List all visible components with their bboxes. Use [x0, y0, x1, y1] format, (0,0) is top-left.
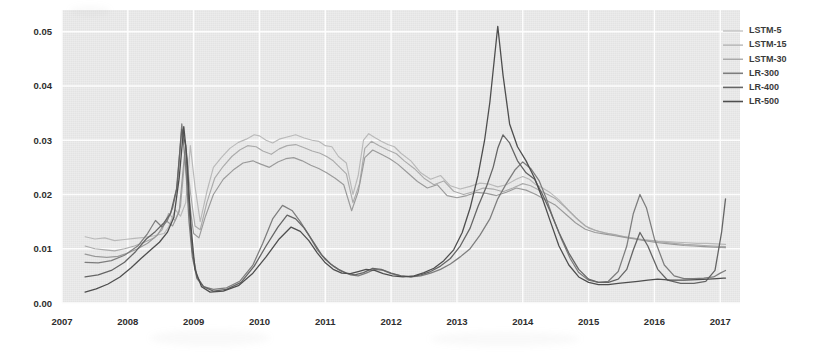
legend-label-lr-300: LR-300: [749, 68, 779, 78]
x-tick-label: 2009: [183, 316, 204, 327]
x-tick-label: 2015: [578, 316, 600, 327]
y-tick-label: 0.01: [34, 243, 53, 254]
legend-label-lr-500: LR-500: [749, 96, 779, 106]
x-tick-label: 2008: [117, 316, 138, 327]
y-tick-label: 0.05: [34, 26, 53, 37]
legend: LSTM-5LSTM-15LSTM-30LR-300LR-400LR-500: [723, 25, 787, 106]
x-tick-label: 2010: [249, 316, 270, 327]
series-line-lr-500: [85, 26, 725, 292]
x-tick-label: 2007: [51, 316, 72, 327]
chart-svg: 0.000.010.020.030.040.05 200720082009201…: [0, 0, 813, 357]
gridlines-group: [62, 10, 740, 303]
y-tick-label: 0.03: [34, 135, 53, 146]
series-line-lr-300: [85, 124, 725, 290]
x-tick-label: 2017: [710, 316, 731, 327]
x-axis-tick-labels: 2007200820092010201120122013201420152016…: [51, 316, 730, 327]
series-lines-group: [85, 26, 725, 292]
x-tick-label: 2012: [381, 316, 402, 327]
x-tick-label: 2016: [644, 316, 665, 327]
y-tick-label: 0.04: [34, 80, 53, 91]
x-tick-label: 2014: [512, 316, 534, 327]
chart-figure: 0.000.010.020.030.040.05 200720082009201…: [0, 0, 813, 357]
y-axis-tick-labels: 0.000.010.020.030.040.05: [34, 26, 53, 308]
y-tick-label: 0.00: [34, 298, 53, 309]
y-tick-label: 0.02: [34, 189, 53, 200]
x-tick-label: 2013: [446, 316, 467, 327]
x-tick-label: 2011: [315, 316, 336, 327]
legend-label-lr-400: LR-400: [749, 82, 779, 92]
legend-label-lstm-30: LSTM-30: [749, 54, 787, 64]
legend-label-lstm-5: LSTM-5: [749, 25, 782, 35]
legend-label-lstm-15: LSTM-15: [749, 39, 787, 49]
